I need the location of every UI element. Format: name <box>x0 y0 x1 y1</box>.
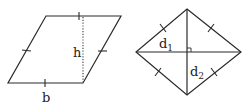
left-side-tick <box>22 50 31 51</box>
diagonal-2-label: d2 <box>190 64 204 81</box>
upper-right-side-tick <box>208 24 214 32</box>
diagonal-1-label: d1 <box>159 36 173 53</box>
base-label: b <box>42 90 50 105</box>
height-label: h <box>73 45 82 60</box>
parallelogram-figure: h b <box>8 12 121 105</box>
parallelogram-outline <box>8 16 121 83</box>
geometry-diagram: h b d1 d2 <box>0 0 248 109</box>
rhombus-figure: d1 d2 <box>136 9 241 95</box>
